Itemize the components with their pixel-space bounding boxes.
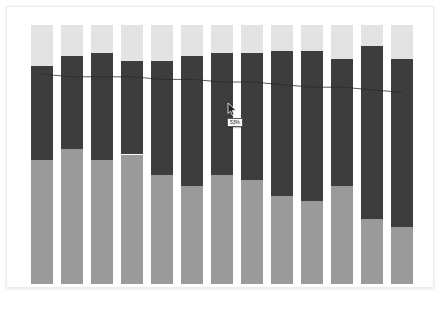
bar-segment-bottom[interactable]	[301, 201, 323, 284]
bar-column[interactable]	[61, 25, 83, 284]
bar-segment-middle[interactable]	[391, 59, 413, 227]
bar-segment-middle[interactable]	[121, 61, 143, 154]
bar-segment-top[interactable]	[391, 25, 413, 59]
bar-segment-top[interactable]	[241, 25, 263, 53]
bar-segment-top[interactable]	[361, 25, 383, 46]
bar-segment-middle[interactable]	[91, 53, 113, 159]
bar-segment-middle[interactable]	[361, 46, 383, 220]
bar-segment-top[interactable]	[61, 25, 83, 56]
bar-segment-top[interactable]	[271, 25, 293, 51]
bar-segment-middle[interactable]	[31, 66, 53, 159]
bar-segment-bottom[interactable]	[121, 155, 143, 285]
bar-column[interactable]	[181, 25, 203, 284]
bar-segment-top[interactable]	[331, 25, 353, 59]
bar-segment-bottom[interactable]	[241, 180, 263, 284]
value-tooltip: 53%	[227, 118, 243, 127]
stacked-bar-chart	[7, 7, 435, 289]
bar-segment-middle[interactable]	[241, 53, 263, 180]
bar-segment-top[interactable]	[91, 25, 113, 53]
bar-segment-middle[interactable]	[61, 56, 83, 149]
bar-segment-middle[interactable]	[301, 51, 323, 201]
bar-segment-bottom[interactable]	[91, 160, 113, 284]
bar-segment-middle[interactable]	[271, 51, 293, 196]
screenshot-root: 53%	[0, 0, 446, 310]
bar-segment-top[interactable]	[121, 25, 143, 61]
bar-segment-bottom[interactable]	[271, 196, 293, 284]
bar-segment-bottom[interactable]	[391, 227, 413, 284]
bar-column[interactable]	[151, 25, 173, 284]
bar-column[interactable]	[271, 25, 293, 284]
bar-column[interactable]	[241, 25, 263, 284]
bar-segment-bottom[interactable]	[31, 160, 53, 284]
bar-column[interactable]	[331, 25, 353, 284]
bar-segment-top[interactable]	[181, 25, 203, 56]
bar-segment-top[interactable]	[151, 25, 173, 61]
bar-column[interactable]	[121, 25, 143, 284]
bar-segment-top[interactable]	[31, 25, 53, 66]
bar-segment-bottom[interactable]	[151, 175, 173, 284]
bar-column[interactable]	[301, 25, 323, 284]
bar-segment-bottom[interactable]	[361, 219, 383, 284]
chart-card: 53%	[6, 6, 434, 288]
bar-segment-bottom[interactable]	[181, 186, 203, 284]
bar-segment-bottom[interactable]	[331, 186, 353, 284]
bar-column[interactable]	[361, 25, 383, 284]
bar-column[interactable]	[391, 25, 413, 284]
bar-segment-middle[interactable]	[181, 56, 203, 186]
bar-column[interactable]	[91, 25, 113, 284]
bar-segment-middle[interactable]	[151, 61, 173, 175]
bar-segment-top[interactable]	[211, 25, 233, 53]
bar-segment-middle[interactable]	[331, 59, 353, 186]
bar-column[interactable]	[211, 25, 233, 284]
bar-segment-top[interactable]	[301, 25, 323, 51]
bar-segment-bottom[interactable]	[211, 175, 233, 284]
bar-column[interactable]	[31, 25, 53, 284]
bar-segment-bottom[interactable]	[61, 149, 83, 284]
mouse-cursor-icon	[227, 102, 238, 117]
